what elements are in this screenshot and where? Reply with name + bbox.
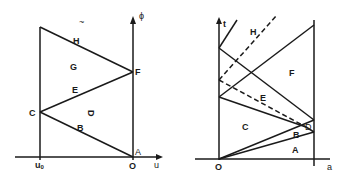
left-diagram: H G F E C D B A O u ϕ u0 ~: [15, 11, 163, 171]
label-origin-left: O: [129, 161, 136, 171]
line-origin-upper: [219, 120, 314, 159]
label-u-axis: u: [154, 160, 159, 170]
label-origin-right: O: [215, 162, 222, 172]
label-a-axis: a: [327, 162, 332, 172]
label-B-right: B: [293, 130, 300, 140]
label-C: C: [29, 108, 36, 118]
label-H: H: [73, 36, 80, 46]
label-F-right: F: [289, 68, 295, 78]
line-B: [40, 112, 133, 157]
label-t-axis: t: [223, 19, 226, 29]
phi-axis-arrow-icon: [130, 16, 136, 24]
label-D: D: [86, 110, 96, 117]
line-to-top-right: [219, 25, 314, 97]
label-E: E: [72, 85, 78, 95]
line-H: [40, 27, 133, 72]
label-u0: u0: [35, 160, 45, 170]
figure-canvas: H G F E C D B A O u ϕ u0 ~ H F E C D B A: [0, 0, 351, 183]
stray-mark: ~: [79, 17, 84, 27]
label-A-right: A: [292, 145, 299, 155]
line-top-steep: [219, 20, 237, 48]
line-upper-diag: [219, 48, 314, 120]
label-D-right: D: [305, 122, 312, 132]
figure-caption: [28, 175, 328, 181]
label-G: G: [70, 62, 77, 72]
label-F: F: [135, 67, 141, 77]
label-E-right: E: [260, 93, 266, 103]
label-H-right: H: [250, 27, 257, 37]
t-axis-arrow-icon: [216, 17, 222, 24]
line-E: [40, 72, 133, 112]
line-origin-lower: [219, 132, 314, 159]
label-B: B: [77, 123, 84, 133]
label-phi-axis: ϕ: [139, 11, 144, 21]
label-A: A: [135, 147, 141, 157]
label-C-right: C: [242, 122, 249, 132]
right-diagram: H F E C D B A O a t: [195, 15, 332, 172]
